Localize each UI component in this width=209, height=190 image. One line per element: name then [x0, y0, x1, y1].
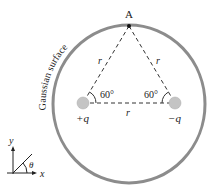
y-arrow-icon — [11, 146, 15, 151]
angle-arc-right — [162, 92, 169, 103]
gaussian-surface-diagram: Gaussian surface A r r r 60° 60° +q −q y… — [0, 0, 209, 190]
side-bottom-label: r — [126, 107, 130, 118]
side-left-label: r — [98, 55, 102, 66]
gaussian-surface — [53, 25, 205, 183]
point-a-label: A — [125, 8, 133, 20]
point-a-marker — [127, 24, 131, 28]
x-arrow-icon — [32, 171, 37, 175]
angle-left-label: 60° — [100, 89, 114, 100]
triangle — [83, 26, 175, 103]
y-axis-label: y — [8, 135, 14, 146]
positive-charge — [77, 97, 89, 109]
side-right-label: r — [156, 55, 160, 66]
angle-arc-left — [90, 92, 97, 103]
theta-label: θ — [29, 160, 34, 170]
negative-charge — [169, 97, 181, 109]
theta-arc — [23, 163, 27, 173]
angle-right-label: 60° — [144, 89, 158, 100]
x-axis-label: x — [39, 168, 45, 179]
negative-charge-label: −q — [168, 112, 181, 124]
positive-charge-label: +q — [76, 112, 89, 124]
